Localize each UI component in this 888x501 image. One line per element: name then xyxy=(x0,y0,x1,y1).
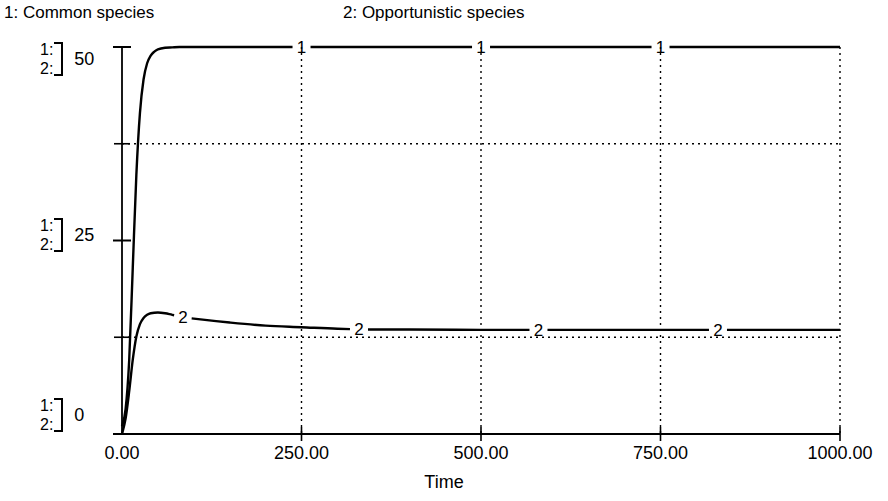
x-axis-title: Time xyxy=(0,472,888,493)
axis-lines xyxy=(113,47,840,434)
x-axis-tick-label: 1000.00 xyxy=(780,443,888,464)
series-marker-labels: 1112222 xyxy=(178,38,722,340)
series-1-marker-label: 1 xyxy=(476,38,485,57)
axis-tick-marks xyxy=(113,47,840,441)
x-axis-tick-label: 0.00 xyxy=(62,443,182,464)
series-2-marker-label: 2 xyxy=(354,320,363,339)
series-2-marker-label: 2 xyxy=(713,321,722,340)
series-line-1 xyxy=(122,47,840,426)
series-1-marker-label: 1 xyxy=(656,38,665,57)
x-axis-tick-label: 250.00 xyxy=(242,443,362,464)
series-2-marker-label: 2 xyxy=(534,321,543,340)
x-axis-tick-label: 500.00 xyxy=(421,443,541,464)
series-2-marker-label: 2 xyxy=(178,308,187,327)
x-axis-tick-label: 750.00 xyxy=(601,443,721,464)
series-1-marker-label: 1 xyxy=(297,38,306,57)
chart-container: 1: Common species 2: Opportunistic speci… xyxy=(0,0,888,501)
vertical-gridlines xyxy=(302,47,841,434)
series-line-2 xyxy=(122,312,840,434)
plot-area: 1112222 xyxy=(0,0,888,501)
